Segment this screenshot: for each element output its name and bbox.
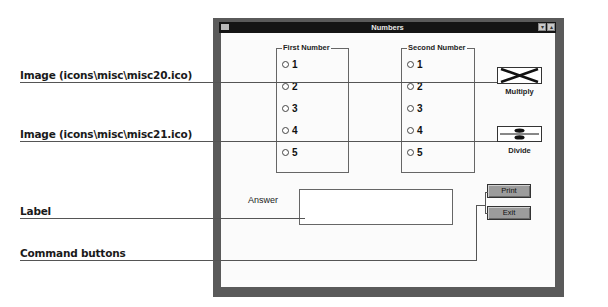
second-option-4[interactable]: 4 [407,125,423,136]
exit-button[interactable]: Exit [487,206,531,220]
first-number-frame: First Number 1 2 3 4 5 [276,48,349,173]
radio-icon [407,127,414,134]
callout-image-misc20: Image (icons\misc\misc20.ico) [20,69,192,81]
callout-label: Label [20,205,51,217]
leader-line-image2 [20,141,497,142]
multiply-x-icon [498,68,541,83]
callout-image-misc21: Image (icons\misc\misc21.ico) [20,128,192,140]
first-option-1[interactable]: 1 [282,59,298,70]
radio-icon [407,61,414,68]
leader-line-image1 [20,82,497,83]
divide-image[interactable] [497,126,542,142]
title-bar[interactable]: Numbers ▾ ▴ [219,22,556,33]
radio-icon [282,105,289,112]
multiply-label: Multiply [497,87,542,96]
radio-icon [282,127,289,134]
leader-line-label [20,218,305,219]
first-option-4[interactable]: 4 [282,125,298,136]
leader-line-print-tick [485,192,488,193]
first-option-5[interactable]: 5 [282,147,298,158]
radio-icon [407,83,414,90]
window-title: Numbers [219,22,556,33]
second-option-3[interactable]: 3 [407,103,423,114]
leader-line-command-vertical [476,205,477,261]
maximize-icon[interactable]: ▴ [547,23,555,31]
leader-line-command [20,260,477,261]
form-client-area: First Number 1 2 3 4 5 Second Number 1 2… [221,33,555,287]
leader-line-exit-tick [485,213,488,214]
first-number-label: First Number [282,43,331,52]
radio-icon [282,61,289,68]
minimize-icon[interactable]: ▾ [538,23,546,31]
callout-command-buttons: Command buttons [20,247,126,259]
answer-output [299,189,453,225]
divide-label: Divide [497,146,542,155]
first-option-3[interactable]: 3 [282,103,298,114]
second-option-1[interactable]: 1 [407,59,423,70]
radio-icon [282,83,289,90]
multiply-image[interactable] [497,67,542,84]
leader-line-command-bracket [485,192,486,214]
second-number-label: Second Number [407,43,467,52]
second-number-frame: Second Number 1 2 3 4 5 [401,48,475,173]
divide-icon [498,127,541,141]
radio-icon [407,149,414,156]
second-option-5[interactable]: 5 [407,147,423,158]
answer-label: Answer [248,195,278,205]
radio-icon [407,105,414,112]
print-button[interactable]: Print [487,184,531,198]
radio-icon [282,149,289,156]
